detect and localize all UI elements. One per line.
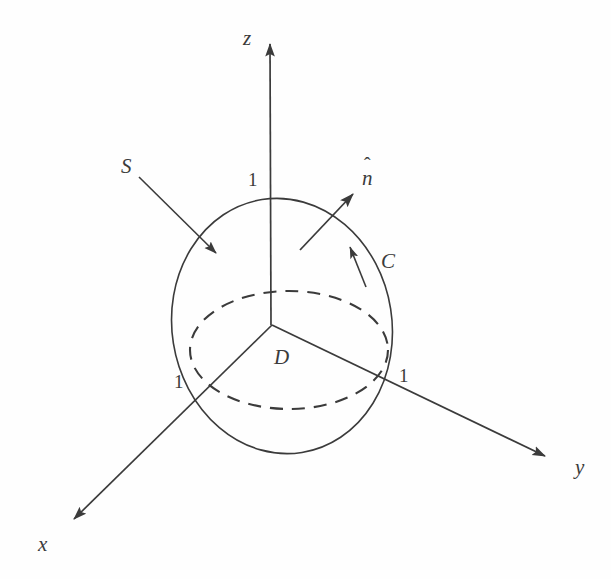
- x-tick-one-label: 1: [174, 372, 184, 391]
- normal-base-letter: n: [362, 166, 373, 190]
- curve-orientation-arrow: [350, 247, 366, 287]
- surface-leader-arrow: [139, 177, 216, 253]
- y-axis-label: y: [575, 457, 584, 478]
- surface-ellipse: [153, 182, 410, 469]
- y-axis-line: [272, 325, 545, 456]
- x-axis-line: [74, 325, 272, 519]
- y-tick-one-label: 1: [399, 366, 409, 385]
- surface-label: S: [121, 156, 132, 177]
- normal-vector-label: ̂ n: [362, 168, 373, 189]
- z-tick-one-label: 1: [248, 170, 258, 189]
- region-label: D: [274, 347, 289, 368]
- z-axis-line: [270, 44, 271, 325]
- z-axis-label: z: [243, 28, 251, 49]
- normal-vector-arrow: [300, 194, 353, 250]
- curve-label: C: [381, 251, 395, 272]
- x-axis-label: x: [38, 534, 47, 555]
- normal-symbol: ̂ n: [362, 168, 373, 189]
- figure-canvas: z y x 1 1 1 S D C ̂ n: [0, 0, 611, 579]
- diagram-svg: [0, 0, 611, 579]
